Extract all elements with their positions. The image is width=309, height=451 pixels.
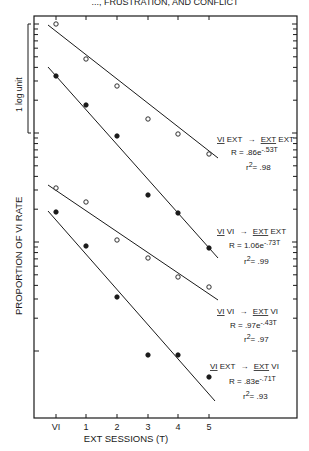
condition-post: VI bbox=[269, 362, 279, 371]
condition-post: VI bbox=[268, 307, 278, 316]
filled-data-point bbox=[115, 134, 119, 138]
log-unit-label: 1 log unit bbox=[14, 77, 24, 112]
r2-value: = .93 bbox=[250, 392, 269, 401]
open-data-point bbox=[84, 57, 88, 61]
svg-text:VI EXT → EXT VI: VI EXT → EXT VI bbox=[210, 362, 279, 371]
open-data-point bbox=[207, 285, 211, 289]
plot-frame bbox=[34, 16, 297, 418]
open-data-point bbox=[176, 275, 180, 279]
condition-post: EXT bbox=[276, 135, 294, 144]
svg-text:VI VI → EXT VI: VI VI → EXT VI bbox=[217, 307, 278, 316]
annotation-vi-ext-ext-vi: VI EXT → EXT VI R = .83e-.71T r2= .93 bbox=[210, 362, 279, 401]
equation: R = .86e bbox=[231, 148, 262, 157]
r2-value: = .97 bbox=[251, 335, 270, 344]
fit-line-vi-vi-ext-ext bbox=[48, 67, 218, 258]
open-data-point bbox=[54, 186, 58, 190]
x-tick-label: 4 bbox=[175, 422, 180, 432]
fit-line-vi-vi-ext-vi bbox=[48, 185, 218, 300]
x-tick-label: 5 bbox=[206, 422, 211, 432]
condition-pre: EXT bbox=[225, 135, 243, 144]
filled-data-point bbox=[54, 210, 58, 214]
filled-data-point bbox=[115, 295, 119, 299]
open-data-point bbox=[84, 200, 88, 204]
arrow-icon: → bbox=[247, 135, 255, 144]
condition-pre-underlined: VI bbox=[217, 135, 225, 144]
fit-line-vi-ext-ext-ext bbox=[48, 25, 218, 158]
condition-post-underlined: EXT bbox=[261, 135, 277, 144]
open-data-point bbox=[115, 84, 119, 88]
condition-post-underlined: EXT bbox=[253, 227, 269, 236]
annotation-vi-vi-ext-vi: VI VI → EXT VI R = .97e-.43T r2= .97 bbox=[217, 307, 278, 344]
arrow-icon: → bbox=[240, 227, 248, 236]
log-unit-scale-bar bbox=[28, 24, 31, 133]
x-tick-label: 3 bbox=[145, 422, 150, 432]
equation-exponent: -.53T bbox=[261, 146, 278, 153]
condition-post: EXT bbox=[268, 227, 286, 236]
svg-text:R = .97e-.43T: R = .97e-.43T bbox=[230, 319, 278, 330]
svg-text:r2= .99: r2= .99 bbox=[244, 255, 269, 266]
open-data-point bbox=[54, 22, 58, 26]
filled-data-point bbox=[84, 244, 88, 248]
svg-text:r2= .98: r2= .98 bbox=[246, 161, 271, 172]
equation-exponent: -.71T bbox=[259, 375, 276, 382]
condition-pre: VI bbox=[225, 227, 235, 236]
condition-pre: VI bbox=[225, 307, 235, 316]
condition-post-underlined: EXT bbox=[253, 307, 269, 316]
equation: R = 1.06e bbox=[229, 241, 264, 250]
r2-value: = .98 bbox=[253, 163, 272, 172]
filled-data-point bbox=[207, 246, 211, 250]
condition-pre-underlined: VI bbox=[217, 227, 225, 236]
annotation-vi-ext-ext-ext: VI EXT → EXT EXT R = .86e-.53T r2= .98 bbox=[217, 135, 294, 172]
equation-exponent: -.43T bbox=[260, 319, 277, 326]
page-header: ..., FRUSTRATION, AND CONFLICT bbox=[92, 0, 239, 7]
open-data-point bbox=[146, 117, 150, 121]
filled-data-point bbox=[146, 353, 150, 357]
annotation-vi-vi-ext-ext: VI VI → EXT EXT R = 1.06e-.73T r2= .99 bbox=[217, 227, 286, 266]
y-axis-label: PROPORTION OF VI RATE bbox=[13, 197, 24, 315]
filled-data-point bbox=[207, 375, 211, 379]
x-axis-label: EXT SESSIONS (T) bbox=[84, 433, 168, 444]
x-tick-label: 2 bbox=[114, 422, 119, 432]
condition-pre: EXT bbox=[218, 362, 236, 371]
equation: R = .83e bbox=[229, 377, 260, 386]
svg-text:R = .86e-.53T: R = .86e-.53T bbox=[231, 146, 279, 157]
svg-text:R = 1.06e-.73T: R = 1.06e-.73T bbox=[229, 239, 281, 250]
open-data-point bbox=[176, 132, 180, 136]
x-tick-label: 1 bbox=[83, 422, 88, 432]
svg-text:r2= .93: r2= .93 bbox=[243, 390, 268, 401]
chart: ..., FRUSTRATION, AND CONFLICT VI 1 2 3 … bbox=[0, 0, 309, 451]
x-tick-label: VI bbox=[52, 422, 61, 432]
equation-exponent: -.73T bbox=[264, 239, 281, 246]
arrow-icon: → bbox=[240, 362, 248, 371]
open-data-point bbox=[115, 238, 119, 242]
condition-pre-underlined: VI bbox=[217, 307, 225, 316]
equation: R = .97e bbox=[230, 321, 261, 330]
filled-data-point bbox=[54, 74, 58, 78]
open-data-point bbox=[207, 152, 211, 156]
condition-pre-underlined: VI bbox=[210, 362, 218, 371]
filled-data-point bbox=[84, 103, 88, 107]
filled-data-point bbox=[176, 353, 180, 357]
arrow-icon: → bbox=[240, 307, 248, 316]
svg-text:r2= .97: r2= .97 bbox=[244, 333, 269, 344]
fit-line-vi-ext-ext-vi bbox=[48, 211, 215, 401]
open-data-point bbox=[146, 256, 150, 260]
y-axis-ticks bbox=[34, 24, 297, 351]
svg-text:R = .83e-.71T: R = .83e-.71T bbox=[229, 375, 277, 386]
filled-data-point bbox=[146, 193, 150, 197]
data-points bbox=[54, 22, 211, 379]
r2-value: = .99 bbox=[251, 257, 270, 266]
svg-text:VI VI → EXT EXT: VI VI → EXT EXT bbox=[217, 227, 286, 236]
svg-text:VI EXT → EXT EXT: VI EXT → EXT EXT bbox=[217, 135, 294, 144]
filled-data-point bbox=[176, 211, 180, 215]
condition-post-underlined: EXT bbox=[254, 362, 270, 371]
